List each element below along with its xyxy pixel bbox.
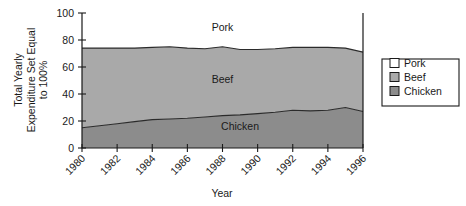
x-axis-tick-labels: 198019821984198619881990199219941996 — [62, 152, 368, 177]
x-axis-title: Year — [211, 187, 233, 199]
y-axis-tick-labels: 020406080100 — [56, 7, 74, 154]
y-axis-title-line1: Total Yearly — [12, 52, 24, 106]
chart-legend: PorkBeefChicken — [382, 57, 459, 106]
x-tick-label: 1996 — [343, 152, 368, 177]
series-label-pork: Pork — [212, 21, 234, 33]
x-tick-label: 1994 — [308, 152, 333, 177]
y-tick-label: 80 — [62, 34, 74, 46]
legend-label-pork: Pork — [404, 57, 426, 69]
chart-figure: 020406080100 198019821984198619881990199… — [0, 0, 466, 206]
x-tick-label: 1984 — [133, 152, 158, 177]
x-tick-label: 1982 — [98, 152, 123, 177]
x-tick-label: 1992 — [273, 152, 298, 177]
y-axis-title: Total Yearly Expenditure Set Equal to 10… — [12, 28, 49, 133]
y-tick-label: 40 — [62, 88, 74, 100]
series-label-chicken: Chicken — [221, 120, 259, 132]
legend-label-chicken: Chicken — [404, 85, 442, 97]
legend-label-beef: Beef — [404, 71, 426, 83]
y-tick-label: 20 — [62, 115, 74, 127]
y-axis-title-line3: to 100% — [37, 61, 49, 100]
y-tick-label: 0 — [68, 142, 74, 154]
legend-swatch-pork — [390, 59, 399, 68]
y-tick-label: 100 — [56, 7, 74, 19]
x-tick-label: 1986 — [168, 152, 193, 177]
legend-swatch-beef — [390, 73, 399, 82]
stacked-area-chart: 020406080100 198019821984198619881990199… — [0, 0, 466, 206]
legend-swatch-chicken — [390, 87, 399, 96]
y-axis-title-line2: Expenditure Set Equal — [25, 28, 37, 133]
x-tick-label: 1988 — [203, 152, 228, 177]
series-label-beef: Beef — [212, 73, 234, 85]
x-tick-label: 1990 — [238, 152, 263, 177]
x-tick-label: 1980 — [62, 152, 87, 177]
y-tick-label: 60 — [62, 61, 74, 73]
